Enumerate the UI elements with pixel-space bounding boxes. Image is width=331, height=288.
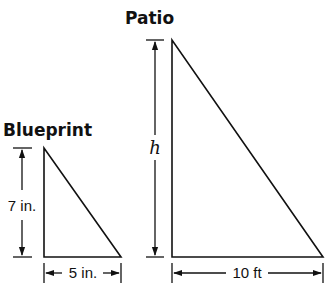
patio-triangle [172, 40, 323, 257]
blueprint-figure: Blueprint 7 in. 5 in. [3, 120, 121, 283]
patio-base-dimension: 10 ft [172, 263, 323, 283]
patio-figure: Patio h 10 ft [125, 8, 323, 283]
patio-height-label: h [149, 137, 161, 158]
blueprint-base-label: 5 in. [69, 264, 97, 281]
blueprint-title: Blueprint [3, 120, 92, 140]
patio-base-label: 10 ft [232, 264, 262, 281]
patio-height-dimension: h [146, 40, 164, 257]
blueprint-base-dimension: 5 in. [44, 263, 121, 283]
patio-title: Patio [125, 8, 174, 28]
blueprint-height-label: 7 in. [8, 197, 36, 214]
similar-triangles-diagram: Blueprint 7 in. 5 in. Patio h [0, 0, 331, 288]
blueprint-height-dimension: 7 in. [8, 148, 36, 257]
blueprint-triangle [44, 148, 121, 257]
